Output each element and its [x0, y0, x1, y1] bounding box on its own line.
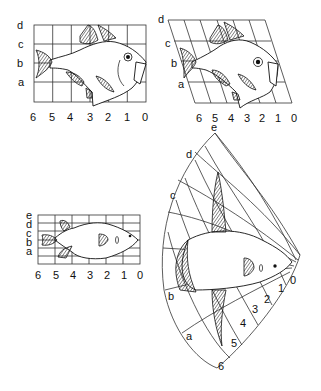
svg-text:c: c [165, 37, 171, 49]
svg-text:6: 6 [196, 112, 202, 124]
puffer-outline [42, 220, 138, 258]
svg-text:1: 1 [275, 112, 281, 124]
svg-text:6: 6 [30, 111, 36, 123]
svg-text:4: 4 [67, 111, 73, 123]
svg-text:4: 4 [228, 112, 234, 124]
svg-text:4: 4 [240, 317, 246, 329]
svg-text:5: 5 [231, 337, 237, 349]
svg-text:e: e [211, 121, 217, 133]
svg-text:4: 4 [70, 269, 76, 281]
svg-text:b: b [171, 57, 177, 69]
svg-text:2: 2 [104, 269, 110, 281]
svg-text:d: d [158, 13, 164, 25]
svg-text:a: a [18, 76, 25, 88]
panel-radial-sunfish: e d c b a 0 1 2 3 4 5 6 [162, 121, 300, 372]
svg-text:b: b [168, 290, 174, 302]
svg-text:3: 3 [87, 111, 93, 123]
svg-text:0: 0 [142, 111, 148, 123]
svg-text:1: 1 [278, 282, 284, 294]
svg-text:0: 0 [137, 269, 143, 281]
svg-text:5: 5 [49, 111, 55, 123]
col-labels-1: 6 5 4 3 2 1 0 [30, 111, 148, 123]
svg-text:3: 3 [252, 303, 258, 315]
svg-text:c: c [18, 38, 24, 50]
svg-text:a: a [26, 245, 33, 257]
svg-text:3: 3 [87, 269, 93, 281]
figure-canvas: d c b a 6 5 4 3 2 1 0 [0, 0, 321, 391]
svg-text:2: 2 [259, 112, 265, 124]
col-labels-3: 6 5 4 3 2 1 0 [35, 269, 143, 281]
panel-oblique-fish: d c b a 6 5 4 3 2 1 0 [158, 13, 297, 124]
svg-text:b: b [17, 57, 23, 69]
row-labels-1: d c b a [17, 19, 25, 88]
svg-text:2: 2 [264, 293, 270, 305]
svg-text:0: 0 [291, 112, 297, 124]
svg-text:1: 1 [124, 111, 130, 123]
svg-text:0: 0 [290, 274, 296, 286]
svg-text:a: a [178, 78, 185, 90]
svg-text:d: d [186, 148, 192, 160]
svg-text:2: 2 [105, 111, 111, 123]
panel-rectangular-puffer: e d c b a 6 5 4 3 2 1 0 [26, 209, 143, 281]
svg-text:5: 5 [53, 269, 59, 281]
svg-text:3: 3 [244, 112, 250, 124]
svg-text:a: a [186, 330, 193, 342]
svg-text:c: c [170, 189, 176, 201]
svg-text:6: 6 [218, 360, 224, 372]
row-labels-3: e d c b a [26, 209, 33, 257]
fish-outline-2 [180, 22, 278, 108]
svg-text:d: d [17, 19, 23, 31]
svg-text:6: 6 [35, 269, 41, 281]
svg-text:1: 1 [121, 269, 127, 281]
panel-rectangular-fish: d c b a 6 5 4 3 2 1 0 [17, 19, 148, 123]
